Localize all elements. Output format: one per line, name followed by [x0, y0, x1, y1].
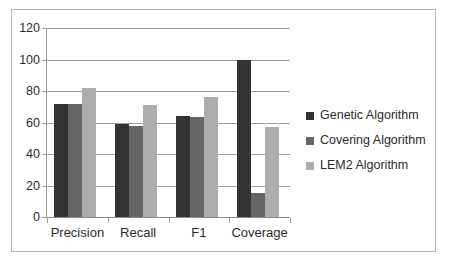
bar-precision-lem2[interactable]: [82, 88, 96, 217]
y-tick-label-0: 0: [0, 211, 40, 224]
y-tick-label-120: 120: [0, 22, 40, 35]
bar-coverage-covering[interactable]: [251, 193, 265, 217]
y-tick-label-100: 100: [0, 54, 40, 67]
legend-item-label: LEM2 Algorithm: [320, 159, 408, 172]
chart-legend: Genetic AlgorithmCovering AlgorithmLEM2 …: [306, 103, 431, 178]
bar-group-coverage: [237, 28, 279, 217]
x-tick-mark-1: [108, 218, 109, 223]
filled-square-icon: [306, 112, 314, 120]
x-category-label-coverage: Coverage: [229, 226, 290, 239]
bar-recall-covering[interactable]: [129, 126, 143, 217]
x-category-label-f1: F1: [169, 226, 230, 239]
bar-f1-lem2[interactable]: [204, 97, 218, 217]
bar-recall-genetic[interactable]: [115, 124, 129, 217]
bar-coverage-genetic[interactable]: [237, 60, 251, 218]
filled-square-icon: [306, 162, 314, 170]
bar-f1-genetic[interactable]: [176, 116, 190, 217]
y-tick-label-20: 20: [0, 180, 40, 193]
x-category-label-recall: Recall: [108, 226, 169, 239]
legend-item-lem2[interactable]: LEM2 Algorithm: [306, 153, 431, 178]
filled-square-icon: [306, 137, 314, 145]
bar-f1-covering[interactable]: [190, 117, 204, 217]
bar-group-recall: [115, 28, 157, 217]
y-tick-label-80: 80: [0, 85, 40, 98]
bar-group-f1: [176, 28, 218, 217]
y-tick-label-40: 40: [0, 148, 40, 161]
bar-precision-covering[interactable]: [68, 104, 82, 217]
y-tick-label-60: 60: [0, 117, 40, 130]
bar-group-precision: [54, 28, 96, 217]
x-tick-mark-2: [169, 218, 170, 223]
plot-area: [47, 28, 290, 217]
bar-chart-figure: 020406080100120 PrecisionRecallF1Coverag…: [0, 0, 450, 268]
legend-item-covering[interactable]: Covering Algorithm: [306, 128, 431, 153]
bar-recall-lem2[interactable]: [143, 105, 157, 217]
bar-coverage-lem2[interactable]: [265, 127, 279, 217]
bar-precision-genetic[interactable]: [54, 104, 68, 217]
x-tick-mark-3: [229, 218, 230, 223]
legend-item-genetic[interactable]: Genetic Algorithm: [306, 103, 431, 128]
legend-item-label: Genetic Algorithm: [320, 109, 419, 122]
legend-item-label: Covering Algorithm: [320, 134, 426, 147]
x-tick-mark-4: [290, 218, 291, 223]
x-category-label-precision: Precision: [47, 226, 108, 239]
x-tick-mark-0: [47, 218, 48, 223]
